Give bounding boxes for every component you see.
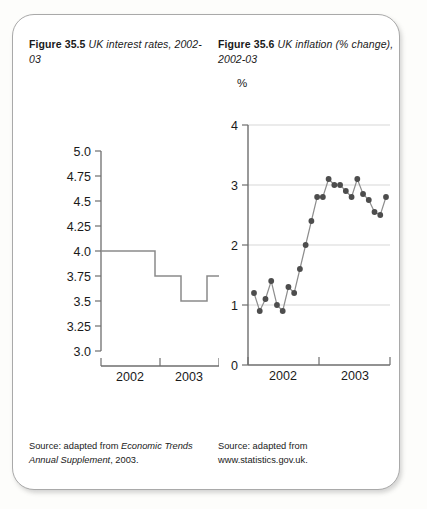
y-tick-label: 4.0 [74, 245, 91, 259]
inflation-chart: 4 3 2 1 0 [218, 101, 396, 383]
data-point [286, 284, 292, 290]
data-point [263, 296, 269, 302]
figure-35-6-number: Figure 35.6 [218, 38, 275, 50]
y-axis-ticks [95, 151, 101, 351]
y-axis-ticks [242, 125, 248, 365]
data-point [280, 308, 286, 314]
source-suffix: , 2003. [110, 455, 138, 465]
data-point [251, 290, 257, 296]
data-point [360, 191, 366, 197]
data-point [354, 176, 360, 182]
data-point [291, 290, 297, 296]
data-point [257, 308, 263, 314]
x-axis-ticks [101, 358, 219, 366]
y-tick-label: 3.25 [67, 320, 91, 334]
data-point [337, 182, 343, 188]
source-line-1: Source: adapted from [218, 440, 388, 454]
percent-axis-unit-label: % [237, 77, 247, 89]
data-point [372, 209, 378, 215]
data-point [383, 194, 389, 200]
interest-rates-chart: 5.0 4.75 4.5 4.25 4.0 3.75 3.5 3.25 3.0 [29, 133, 219, 383]
data-point [377, 212, 383, 218]
source-line-2: www.statistics.gov.uk. [218, 454, 388, 468]
y-tick-label: 5.0 [74, 145, 91, 159]
x-tick-label-2002: 2002 [269, 369, 297, 383]
x-axis-labels: 2002 2003 [269, 369, 369, 383]
source-prefix: Source: adapted from [29, 441, 121, 451]
figure-35-5-number: Figure 35.5 [29, 38, 86, 50]
gridlines [248, 125, 390, 305]
y-tick-label: 2 [231, 239, 238, 253]
data-point [308, 218, 314, 224]
x-tick-label-2003: 2003 [175, 370, 203, 383]
data-point [303, 242, 309, 248]
y-tick-label: 0 [231, 359, 238, 373]
y-tick-label: 4.75 [67, 170, 91, 184]
y-axis-labels: 5.0 4.75 4.5 4.25 4.0 3.75 3.5 3.25 3.0 [67, 145, 91, 359]
y-tick-label: 4.5 [74, 195, 91, 209]
data-point [297, 266, 303, 272]
y-tick-label: 3 [231, 179, 238, 193]
y-tick-label: 3.5 [74, 295, 91, 309]
x-tick-label-2002: 2002 [116, 370, 144, 383]
y-tick-label: 4 [231, 119, 238, 133]
x-tick-label-2003: 2003 [341, 369, 369, 383]
data-point [343, 188, 349, 194]
figure-35-5-column: Figure 35.5 UK interest rates, 2002-03 [29, 15, 219, 491]
figures-panel: Figure 35.5 UK interest rates, 2002-03 [12, 14, 400, 490]
data-point [349, 194, 355, 200]
interest-rate-step-line [101, 251, 219, 301]
data-point [314, 194, 320, 200]
x-axis-ticks [248, 357, 390, 365]
figure-35-6-source: Source: adapted from www.statistics.gov.… [218, 440, 388, 467]
y-tick-label: 1 [231, 299, 238, 313]
x-axis-labels: 2002 2003 [116, 370, 203, 383]
data-point [326, 176, 332, 182]
interest-rates-svg: 5.0 4.75 4.5 4.25 4.0 3.75 3.5 3.25 3.0 [29, 133, 219, 383]
figure-35-6-caption: Figure 35.6 UK inflation (% change), 200… [218, 37, 394, 66]
data-point [366, 197, 372, 203]
y-axis-labels: 4 3 2 1 0 [231, 119, 238, 373]
page-background: Figure 35.5 UK interest rates, 2002-03 [0, 0, 427, 509]
data-point [274, 302, 280, 308]
data-point [331, 182, 337, 188]
data-point [268, 278, 274, 284]
inflation-svg: 4 3 2 1 0 [218, 101, 396, 383]
y-tick-label: 4.25 [67, 220, 91, 234]
figure-35-5-source: Source: adapted from Economic Trends Ann… [29, 440, 215, 467]
figure-35-6-column: Figure 35.6 UK inflation (% change), 200… [218, 15, 396, 491]
figure-35-5-caption: Figure 35.5 UK interest rates, 2002-03 [29, 37, 205, 66]
y-tick-label: 3.75 [67, 270, 91, 284]
y-tick-label: 3.0 [74, 345, 91, 359]
data-point [320, 194, 326, 200]
